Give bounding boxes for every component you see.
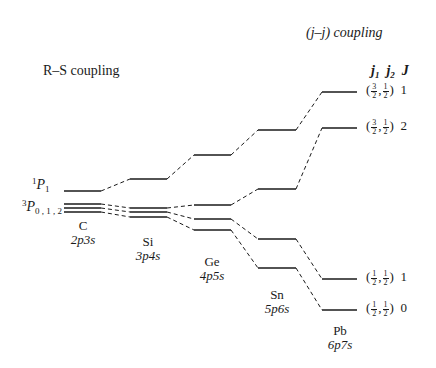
electron-configuration: 2p3s xyxy=(71,233,96,247)
element-symbol: Pb xyxy=(333,324,347,338)
correlation-line xyxy=(231,130,258,155)
j1-fraction: 32 xyxy=(371,83,377,100)
correlation-line xyxy=(231,189,258,205)
jj-state-label: (12,12) 0 xyxy=(366,301,407,318)
correlation-line xyxy=(296,92,322,130)
correlation-line xyxy=(296,268,322,310)
correlation-line xyxy=(101,208,130,212)
correlation-line xyxy=(167,217,194,230)
correlation-line xyxy=(101,212,130,217)
element-symbol: C xyxy=(79,219,88,233)
element-symbol: Si xyxy=(143,235,154,249)
jj-state-label: (32,12) 2 xyxy=(366,119,407,136)
total-J: 1 xyxy=(400,269,407,284)
correlation-line xyxy=(167,205,194,208)
jj-state-label: (12,12) 1 xyxy=(366,270,407,287)
total-J: 1 xyxy=(400,82,407,97)
singlet-label: 1P1 xyxy=(32,174,50,196)
triplet-label: 3P0 , 1 , 2 xyxy=(22,196,62,218)
j2-fraction: 12 xyxy=(383,270,389,287)
correlation-line xyxy=(296,128,322,189)
rs-coupling-title: R–S coupling xyxy=(43,64,120,78)
quantum-number-header: j1 j2 J xyxy=(371,64,409,82)
jj-coupling-title: (j–j) coupling xyxy=(306,26,383,40)
electron-configuration: 4p5s xyxy=(200,269,225,283)
correlation-line xyxy=(101,179,130,191)
electron-configuration: 5p6s xyxy=(265,302,290,316)
jj-state-label: (32,12) 1 xyxy=(366,83,407,100)
correlation-line xyxy=(296,239,322,279)
electron-configuration: 6p7s xyxy=(328,338,353,352)
j2-fraction: 12 xyxy=(383,83,389,100)
energy-level-diagram: R–S coupling (j–j) coupling j1 j2 J 1P1 … xyxy=(0,0,436,368)
j1-fraction: 12 xyxy=(371,301,377,318)
correlation-line xyxy=(101,204,130,208)
j2-fraction: 12 xyxy=(383,119,389,136)
j1-fraction: 12 xyxy=(371,270,377,287)
electron-configuration: 3p4s xyxy=(136,249,161,263)
total-J: 0 xyxy=(400,300,407,315)
element-symbol: Ge xyxy=(204,255,219,269)
j1-fraction: 32 xyxy=(371,119,377,136)
correlation-line xyxy=(167,155,194,179)
j2-fraction: 12 xyxy=(383,301,389,318)
correlation-line xyxy=(167,212,194,219)
element-symbol: Sn xyxy=(270,288,284,302)
total-J: 2 xyxy=(400,118,407,133)
